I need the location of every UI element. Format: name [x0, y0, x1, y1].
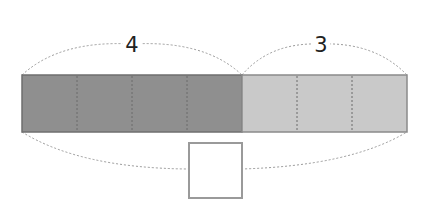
- segment-right: [242, 75, 407, 132]
- left-segment-label: 4: [122, 35, 141, 56]
- tape-diagram: 4 3: [0, 0, 426, 210]
- right-segment-label: 3: [311, 35, 330, 56]
- answer-box[interactable]: [188, 142, 243, 199]
- brace-bottom-right: [241, 132, 407, 169]
- brace-bottom-left: [22, 132, 188, 169]
- segment-left: [22, 75, 242, 132]
